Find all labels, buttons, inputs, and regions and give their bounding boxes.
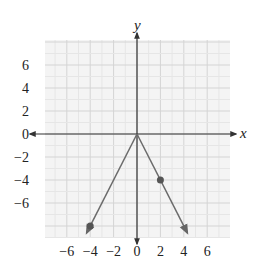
x-tick-label: 0	[134, 244, 141, 259]
y-tick-label: 0	[22, 127, 29, 142]
y-tick-label: −6	[14, 196, 29, 211]
x-tick-label: 6	[204, 244, 211, 259]
graph-canvas: −6−4−202466420−2−4−6 x y	[0, 0, 260, 270]
x-tick-label: 4	[180, 244, 187, 259]
y-tick-label: −2	[14, 150, 29, 165]
x-axis-label: x	[239, 125, 247, 141]
y-tick-label: 6	[22, 58, 29, 73]
x-tick-label: −4	[83, 244, 98, 259]
y-tick-label: −4	[14, 173, 29, 188]
x-tick-label: −2	[106, 244, 121, 259]
x-tick-label: −6	[59, 244, 74, 259]
plotted-point	[87, 223, 94, 230]
y-tick-label: 4	[22, 81, 29, 96]
y-axis-label: y	[132, 17, 141, 33]
x-tick-label: 2	[157, 244, 164, 259]
plotted-point	[157, 177, 164, 184]
y-tick-label: 2	[22, 104, 29, 119]
